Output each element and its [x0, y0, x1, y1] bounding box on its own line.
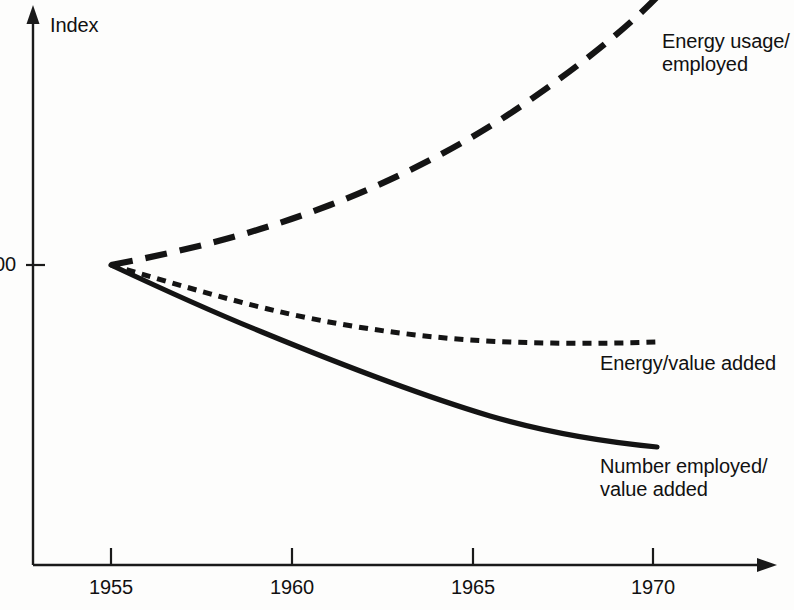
x-axis-tick-label-1965: 1965: [443, 576, 503, 598]
y-axis: [26, 5, 45, 565]
x-axis-tick-label-1955: 1955: [81, 576, 141, 598]
y-axis-tick-label-100: 00: [0, 253, 16, 275]
chart-figure: Index 00 1955 1960 1965 1970 Energy usag…: [0, 0, 794, 610]
x-axis-tick-label-1970: 1970: [623, 576, 683, 598]
x-axis-tick-label-1960: 1960: [262, 576, 322, 598]
chart-canvas: [0, 0, 794, 610]
series-label-energy-value-added: Energy/value added: [600, 352, 776, 374]
series-line-energy-usage-employed: [111, 0, 658, 265]
series-label-energy-usage-employed-line1: Energy usage/: [662, 30, 790, 52]
y-axis-title: Index: [50, 14, 98, 36]
series-line-number-employed-value-added: [111, 265, 657, 447]
x-axis: [33, 548, 777, 572]
y-axis-arrow-icon: [27, 5, 40, 24]
series-label-energy-usage-employed-line2: employed: [662, 53, 748, 75]
series-label-number-employed-line1: Number employed/: [600, 455, 767, 477]
x-axis-arrow-icon: [757, 558, 777, 572]
series-label-number-employed-line2: value added: [600, 478, 708, 500]
